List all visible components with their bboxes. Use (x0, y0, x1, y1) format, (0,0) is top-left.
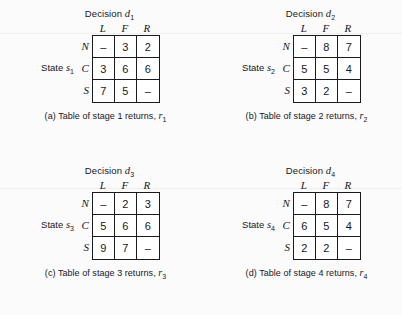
table-cell: – (294, 36, 316, 58)
column-header-l: L (293, 22, 315, 34)
row-label-column: N C S (279, 192, 293, 260)
column-header-r: R (337, 179, 359, 191)
header-spacer (78, 22, 92, 34)
row-label-s: S (78, 236, 92, 258)
column-header-f: F (114, 22, 136, 34)
table-cell: 9 (93, 237, 115, 259)
table-cell: 6 (137, 58, 159, 80)
column-header-l: L (92, 179, 114, 191)
panel-stage-4: Decision d4 State s4 L F R N C S (201, 157, 402, 315)
matrix-stage-2: L F R N C S – 8 7 5 5 (279, 22, 361, 103)
table-cell: 4 (338, 215, 360, 237)
row-label-c: C (78, 57, 92, 79)
figure-container: Decision d1 State s1 L F R N C S (0, 0, 402, 315)
table-cell: 6 (137, 215, 159, 237)
table-cell: 5 (294, 58, 316, 80)
matrix-body: N C S – 8 7 5 5 4 3 2 – (279, 35, 361, 103)
table-cell: 2 (294, 237, 316, 259)
row-label-n: N (78, 192, 92, 214)
panel-stage-2: Decision d2 State s2 L F R N C S (201, 0, 402, 157)
column-header-l: L (92, 22, 114, 34)
table-cell: 7 (338, 193, 360, 215)
table-cell: – (137, 237, 159, 259)
panel-title-stage-3: Decision d3 (85, 165, 134, 178)
column-header-row: L F R (78, 22, 160, 34)
table-cell: 4 (338, 58, 360, 80)
table-cell: 2 (316, 80, 338, 102)
header-spacer (279, 22, 293, 34)
column-header-row: L F R (279, 179, 361, 191)
table-cell: 2 (115, 193, 137, 215)
row-label-n: N (279, 35, 293, 57)
row-label-column: N C S (78, 192, 92, 260)
table-cell: 5 (93, 215, 115, 237)
state-label-stage-1: State s1 (41, 50, 74, 75)
column-header-r: R (136, 22, 158, 34)
table-cell: – (93, 36, 115, 58)
table-area-stage-3: State s3 L F R N C S – (41, 179, 160, 260)
column-header-row: L F R (279, 22, 361, 34)
table-cell: 6 (115, 215, 137, 237)
column-header-f: F (315, 22, 337, 34)
table-cell: 2 (137, 36, 159, 58)
table-cell: – (294, 193, 316, 215)
matrix-cells: – 2 3 5 6 6 9 7 – (92, 192, 160, 260)
row-label-c: C (78, 214, 92, 236)
column-header-f: F (315, 179, 337, 191)
panel-title-stage-2: Decision d2 (286, 8, 335, 21)
panel-caption-stage-4: (d) Table of stage 4 returns, r4 (246, 267, 368, 280)
row-label-c: C (279, 214, 293, 236)
panel-caption-stage-1: (a) Table of stage 1 returns, r1 (45, 110, 167, 123)
panel-title-variable: d1 (125, 8, 134, 19)
panel-title-stage-1: Decision d1 (85, 8, 134, 21)
panel-title-stage-4: Decision d4 (286, 165, 335, 178)
column-header-f: F (114, 179, 136, 191)
panel-title-subscript: 1 (130, 14, 134, 21)
column-header-l: L (293, 179, 315, 191)
table-cell: – (338, 237, 360, 259)
table-cell: 6 (115, 58, 137, 80)
table-area-stage-2: State s2 L F R N C S – (242, 22, 361, 103)
row-label-column: N C S (78, 35, 92, 103)
table-cell: 8 (316, 193, 338, 215)
table-cell: 3 (294, 80, 316, 102)
table-cell: 7 (338, 36, 360, 58)
header-spacer (78, 179, 92, 191)
matrix-body: N C S – 3 2 3 6 6 7 5 – (78, 35, 160, 103)
state-label-stage-3: State s3 (41, 207, 74, 232)
table-cell: 5 (115, 80, 137, 102)
matrix-stage-4: L F R N C S – 8 7 6 5 (279, 179, 361, 260)
table-area-stage-1: State s1 L F R N C S – (41, 22, 160, 103)
table-cell: 3 (137, 193, 159, 215)
table-cell: – (338, 80, 360, 102)
matrix-stage-1: L F R N C S – 3 2 3 6 (78, 22, 160, 103)
table-cell: 2 (316, 237, 338, 259)
column-header-row: L F R (78, 179, 160, 191)
panel-stage-3: Decision d3 State s3 L F R N C S (0, 157, 201, 315)
matrix-cells: – 3 2 3 6 6 7 5 – (92, 35, 160, 103)
table-cell: 8 (316, 36, 338, 58)
panel-caption-stage-2: (b) Table of stage 2 returns, r2 (246, 110, 368, 123)
matrix-cells: – 8 7 6 5 4 2 2 – (293, 192, 361, 260)
panel-caption-stage-3: (c) Table of stage 3 returns, r3 (45, 267, 166, 280)
table-cell: 3 (93, 58, 115, 80)
row-label-n: N (78, 35, 92, 57)
matrix-body: N C S – 2 3 5 6 6 9 7 – (78, 192, 160, 260)
column-header-r: R (337, 22, 359, 34)
table-cell: – (137, 80, 159, 102)
state-label-stage-4: State s4 (242, 207, 275, 232)
column-header-r: R (136, 179, 158, 191)
table-area-stage-4: State s4 L F R N C S – (242, 179, 361, 260)
matrix-cells: – 8 7 5 5 4 3 2 – (293, 35, 361, 103)
row-label-column: N C S (279, 35, 293, 103)
row-label-s: S (279, 79, 293, 101)
panel-title-prefix: Decision (85, 8, 122, 19)
table-cell: 5 (316, 215, 338, 237)
table-cell: 7 (115, 237, 137, 259)
matrix-body: N C S – 8 7 6 5 4 2 2 – (279, 192, 361, 260)
matrix-stage-3: L F R N C S – 2 3 5 6 (78, 179, 160, 260)
table-cell: 6 (294, 215, 316, 237)
table-cell: 7 (93, 80, 115, 102)
table-cell: 5 (316, 58, 338, 80)
row-label-s: S (78, 79, 92, 101)
